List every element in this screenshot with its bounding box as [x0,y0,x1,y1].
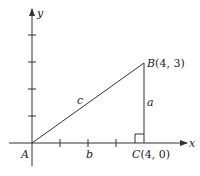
side-b-label: b [86,148,93,161]
side-a-label: a [147,96,154,109]
coordinate-diagram: y x A B(4, 3) C(4, 0) a b c [0,0,200,176]
point-b-label: B(4, 3) [146,57,185,70]
side-c-hypotenuse [32,63,144,143]
point-a-label: A [20,148,29,161]
y-axis-label: y [36,7,44,20]
x-axis-label: x [189,137,196,150]
right-angle-marker [135,134,144,143]
point-c-label: C(4, 0) [132,148,170,161]
side-c-label: c [77,94,83,107]
